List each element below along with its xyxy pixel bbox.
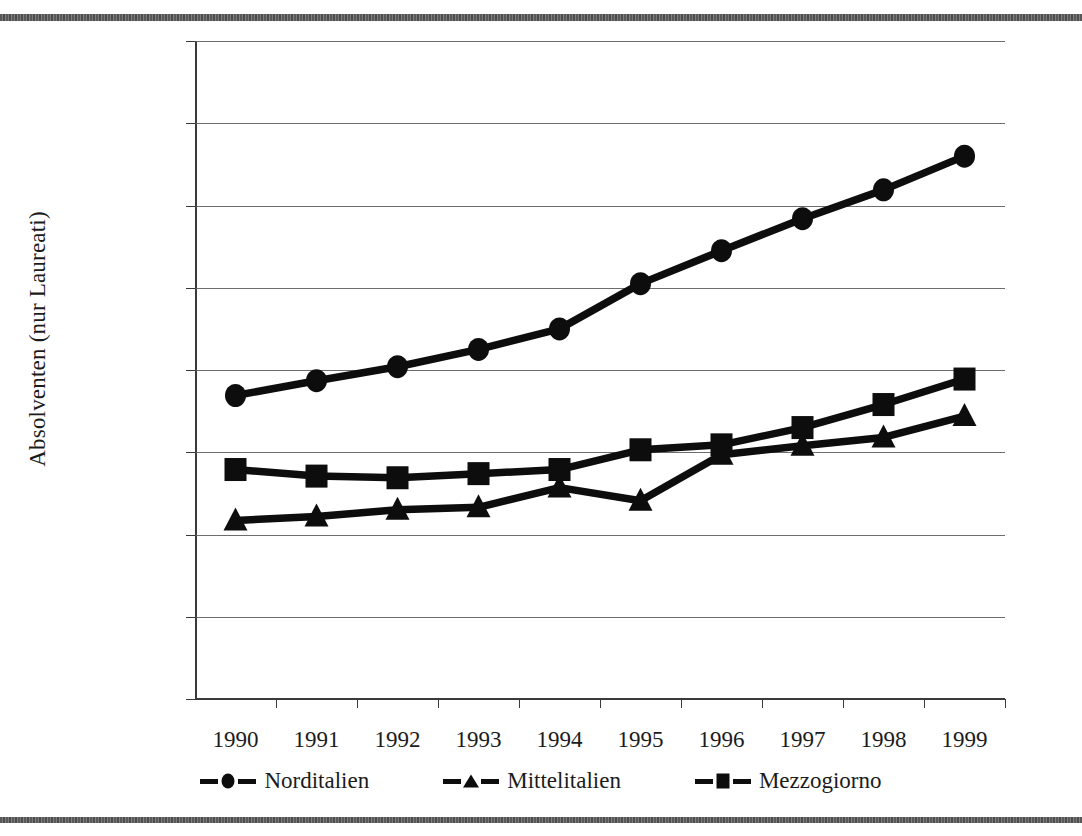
x-tick-mark — [843, 699, 844, 708]
plot-area: 80.00070.00060.00050.00040.00030.00020.0… — [195, 41, 1005, 699]
y-tick-mark — [186, 699, 196, 700]
x-tick-label: 1999 — [915, 727, 1015, 753]
series-mezzogiorno — [225, 368, 976, 490]
data-point-marker-square — [468, 462, 490, 485]
x-tick-mark — [681, 699, 682, 708]
legend-label: Mittelitalien — [507, 768, 621, 794]
line-chart: Absolventen (nur Laureati) 80.00070.0006… — [0, 26, 1082, 806]
scan-edge-band-top — [0, 14, 1082, 21]
legend-item-norditalien[interactable]: Norditalien — [200, 768, 369, 794]
y-axis-title: Absolventen (nur Laureati) — [25, 39, 51, 639]
data-point-marker-square — [225, 458, 247, 481]
legend-label: Mezzogiorno — [759, 768, 882, 794]
chart-page: Absolventen (nur Laureati) 80.00070.0006… — [0, 0, 1082, 836]
data-point-marker-circle — [549, 317, 570, 340]
data-point-marker-circle — [225, 384, 246, 407]
x-tick-mark — [762, 699, 763, 708]
data-point-marker-square — [873, 393, 895, 416]
data-point-marker-circle — [954, 145, 975, 168]
data-point-marker-square — [711, 433, 733, 456]
data-point-marker-square — [792, 416, 814, 439]
x-tick-mark — [438, 699, 439, 708]
series-layer — [195, 41, 1005, 699]
data-point-marker-circle — [630, 272, 651, 295]
data-point-marker-circle — [711, 239, 732, 262]
data-point-marker-square — [306, 465, 328, 488]
legend-key-square-icon — [695, 771, 751, 791]
data-point-marker-square — [549, 458, 571, 481]
series-norditalien — [225, 145, 975, 407]
x-tick-mark — [600, 699, 601, 708]
x-tick-mark — [924, 699, 925, 708]
series-line — [236, 416, 965, 520]
legend-item-mittelitalien[interactable]: Mittelitalien — [443, 768, 621, 794]
chart-legend: NorditalienMittelitalienMezzogiorno — [0, 761, 1082, 801]
legend-item-mezzogiorno[interactable]: Mezzogiorno — [695, 768, 882, 794]
x-tick-mark — [276, 699, 277, 708]
legend-key-triangle-icon — [443, 771, 499, 791]
legend-key-circle-icon — [200, 771, 256, 791]
scan-edge-band-bottom — [0, 817, 1082, 823]
data-point-marker-circle — [792, 207, 813, 230]
x-tick-mark — [357, 699, 358, 708]
data-point-marker-circle — [387, 355, 408, 378]
x-tick-mark — [519, 699, 520, 708]
series-mittelitalien — [224, 403, 977, 530]
x-tick-mark — [1005, 699, 1006, 708]
data-point-marker-circle — [873, 178, 894, 201]
data-point-marker-square — [387, 466, 409, 489]
series-line — [236, 156, 965, 395]
data-point-marker-square — [630, 438, 652, 461]
legend-label: Norditalien — [264, 768, 369, 794]
series-line — [236, 379, 965, 478]
data-point-marker-square — [954, 368, 976, 391]
data-point-marker-circle — [468, 338, 489, 361]
data-point-marker-circle — [306, 369, 327, 392]
